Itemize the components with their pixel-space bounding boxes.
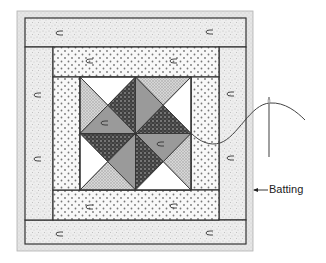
unit-top-right	[136, 77, 192, 134]
outer-border-top	[25, 18, 246, 47]
quilt-diagram: Batting	[0, 0, 326, 263]
inner-border-left	[53, 77, 80, 190]
batting-label: Batting	[269, 184, 303, 195]
needle-eye	[268, 99, 270, 104]
outer-border-right	[219, 47, 246, 220]
inner-border-right	[191, 77, 219, 190]
arrow-left-icon	[253, 188, 258, 192]
unit-bottom-left	[80, 134, 136, 191]
inner-border-top	[53, 47, 219, 77]
inner-border-bottom	[53, 190, 219, 220]
outer-border-left	[25, 47, 53, 220]
center-pinwheel-block	[80, 77, 191, 190]
